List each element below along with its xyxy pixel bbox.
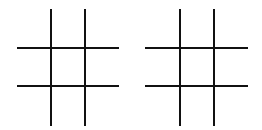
board-cell[interactable] bbox=[18, 87, 50, 125]
board-cell[interactable] bbox=[181, 49, 213, 85]
board-cell[interactable] bbox=[146, 10, 179, 47]
board-cell[interactable] bbox=[215, 10, 247, 47]
board-cell[interactable] bbox=[86, 49, 118, 85]
board-cell[interactable] bbox=[86, 10, 118, 47]
board-cell[interactable] bbox=[52, 10, 84, 47]
board-cell[interactable] bbox=[215, 87, 247, 125]
board-cell[interactable] bbox=[146, 49, 179, 85]
board-cell[interactable] bbox=[52, 49, 84, 85]
board-cell[interactable] bbox=[181, 87, 213, 125]
board-cell[interactable] bbox=[52, 87, 84, 125]
board-cell[interactable] bbox=[86, 87, 118, 125]
board-cell[interactable] bbox=[181, 10, 213, 47]
board-cell[interactable] bbox=[215, 49, 247, 85]
board-cell[interactable] bbox=[146, 87, 179, 125]
board-cell[interactable] bbox=[18, 49, 50, 85]
board-cell[interactable] bbox=[18, 10, 50, 47]
